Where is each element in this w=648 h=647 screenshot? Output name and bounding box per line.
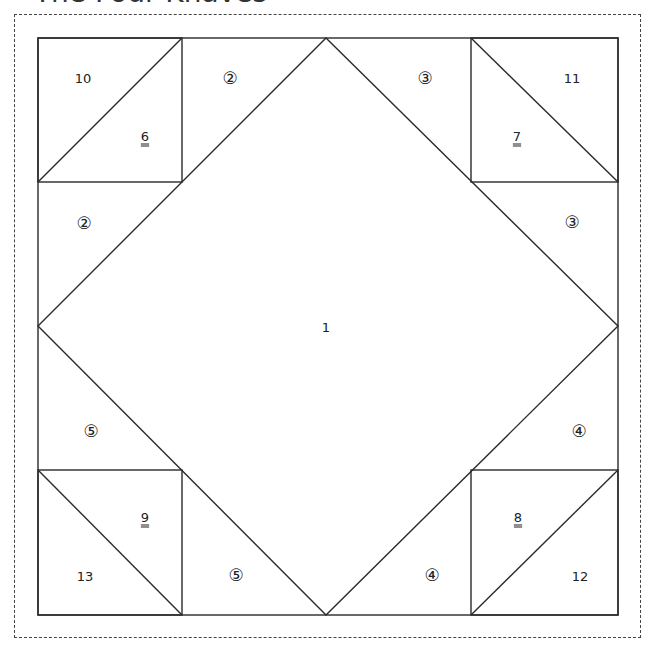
- piece-label-8: 8: [514, 511, 522, 524]
- piece-label-13: 13: [77, 570, 94, 583]
- diagonal-bottom-left: [38, 470, 182, 615]
- piece-label-1: 1: [322, 321, 330, 334]
- piece-label-12: 12: [572, 570, 589, 583]
- piece-label-10: 10: [75, 72, 92, 85]
- piece-label-3-top: ③: [417, 70, 432, 87]
- piece-label-2-top: ②: [222, 70, 237, 87]
- piece-label-9: 9: [141, 511, 149, 524]
- piece-label-4-bottom: ④: [424, 567, 439, 584]
- piece-label-7: 7: [513, 130, 521, 143]
- diagonal-top-right: [471, 38, 618, 182]
- diagonal-top-left: [38, 38, 182, 182]
- piece-label-5-left: ⑤: [83, 423, 98, 440]
- piece-label-2-left: ②: [76, 215, 91, 232]
- piece-label-5-bottom: ⑤: [228, 567, 243, 584]
- piece-label-4-right: ④: [571, 423, 586, 440]
- piece-label-6: 6: [141, 130, 149, 143]
- piece-label-3-right: ③: [564, 214, 579, 231]
- piece-label-11: 11: [564, 72, 581, 85]
- diagonal-bottom-right: [471, 470, 618, 615]
